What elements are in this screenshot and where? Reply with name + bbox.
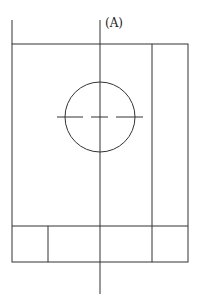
view-label: (A) (105, 16, 123, 30)
technical-drawing: (A) (0, 0, 200, 302)
